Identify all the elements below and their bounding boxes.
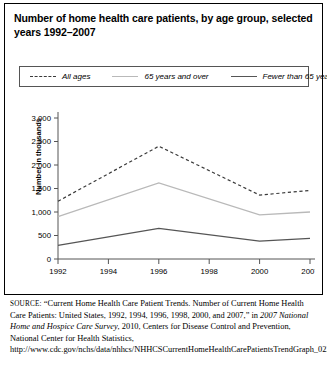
x-axis-tick-label: 2000 xyxy=(251,267,269,276)
legend-label-all-ages: All ages xyxy=(62,72,90,81)
legend-label-65-and-over: 65 years and over xyxy=(144,72,208,81)
x-axis-tick-label: 1992 xyxy=(49,267,66,276)
line-chart: 05001,0001,5002,0002,5003,00019921994199… xyxy=(10,96,315,288)
legend-label-fewer-than-65: Fewer than 65 years xyxy=(263,72,327,81)
figure-panel: Number of home health care patients, by … xyxy=(0,0,327,374)
legend-item-65-and-over: 65 years and over xyxy=(112,72,208,81)
legend-swatch-gray-line-icon xyxy=(112,76,138,77)
x-axis-tick-label: 1994 xyxy=(100,267,118,276)
x-axis-tick-label: 1996 xyxy=(150,267,167,276)
legend-item-fewer-than-65: Fewer than 65 years xyxy=(231,72,327,81)
y-axis-tick-label: 1,000 xyxy=(31,208,51,217)
legend-item-all-ages: All ages xyxy=(30,72,90,81)
series-line-0 xyxy=(58,146,310,201)
series-line-2 xyxy=(58,228,310,245)
source-prefix: SOURCE: xyxy=(10,300,42,308)
y-axis-tick-label: 2,500 xyxy=(31,137,51,146)
y-axis-tick-label: 2,000 xyxy=(31,161,51,170)
legend-swatch-dark-line-icon xyxy=(231,76,257,77)
x-axis-tick-label: 1998 xyxy=(201,267,218,276)
series-line-1 xyxy=(58,183,310,217)
chart-legend: All ages 65 years and over Fewer than 65… xyxy=(19,66,309,87)
plot-area: Number in thousands 05001,0001,5002,0002… xyxy=(10,96,315,288)
legend-swatch-dashed-icon xyxy=(30,76,56,77)
y-axis-tick-label: 0 xyxy=(47,255,52,264)
y-axis-tick-label: 1,500 xyxy=(31,184,51,193)
y-axis-tick-label: 500 xyxy=(38,231,52,240)
y-axis-tick-label: 3,000 xyxy=(31,114,51,123)
page-title: Number of home health care patients, by … xyxy=(14,11,314,39)
x-axis-tick-label: 2007 xyxy=(301,267,315,276)
source-note: SOURCE: “Current Home Health Care Patien… xyxy=(10,298,320,355)
